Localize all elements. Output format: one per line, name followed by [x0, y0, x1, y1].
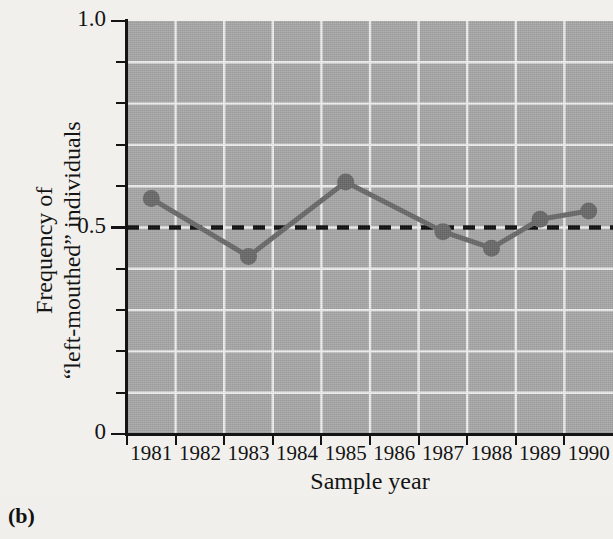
- x-tick-label-1983: 1983: [224, 441, 273, 466]
- chart-canvas: [127, 21, 613, 434]
- x-axis-title: Sample year: [127, 468, 613, 495]
- y-tick-label-1.0: 1.0: [30, 6, 106, 32]
- x-tick-label-1990: 1990: [564, 441, 613, 466]
- y-tick-0.7: [116, 144, 126, 146]
- y-tick-0.8: [116, 102, 126, 104]
- x-tick-label-1986: 1986: [370, 441, 419, 466]
- plot-area: [127, 21, 613, 434]
- y-tick-0.0: [111, 433, 126, 436]
- x-tick-label-1984: 1984: [273, 441, 322, 466]
- y-axis-title-line-1: Frequency of: [30, 50, 58, 450]
- x-tick-label-1988: 1988: [467, 441, 516, 466]
- y-tick-0.2: [116, 350, 126, 352]
- x-tick-label-1981: 1981: [127, 441, 176, 466]
- panel-label: (b): [8, 503, 35, 529]
- y-tick-0.9: [116, 61, 126, 63]
- y-tick-0.3: [116, 309, 126, 311]
- x-tick-label-1987: 1987: [419, 441, 468, 466]
- y-tick-0.1: [116, 392, 126, 394]
- x-tick-label-1985: 1985: [321, 441, 370, 466]
- x-tick-label-1982: 1982: [176, 441, 225, 466]
- y-tick-1.0: [111, 20, 126, 23]
- y-axis-title: Frequency of “left-mouthed” individuals: [30, 50, 87, 450]
- y-axis-title-line-2: “left-mouthed” individuals: [58, 50, 86, 450]
- figure-panel-b: 1.00.50 19811982198319841985198619871988…: [0, 0, 613, 497]
- y-tick-0.4: [116, 268, 126, 270]
- y-tick-0.5: [111, 226, 126, 229]
- y-tick-0.6: [116, 185, 126, 187]
- x-tick-label-1989: 1989: [516, 441, 565, 466]
